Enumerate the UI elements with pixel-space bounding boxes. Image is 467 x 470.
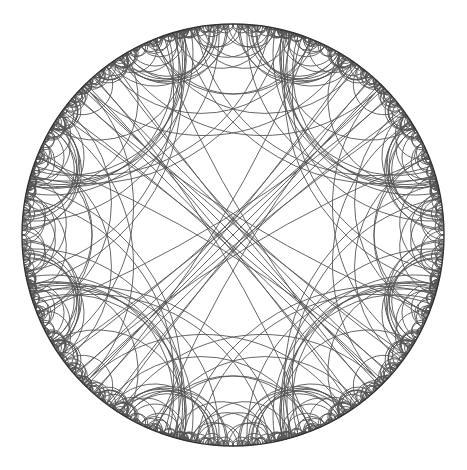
tiling-figure: Hyperbolic tiling (Poincaré disk) (0, 0, 467, 470)
poincare-disk (0, 0, 467, 470)
